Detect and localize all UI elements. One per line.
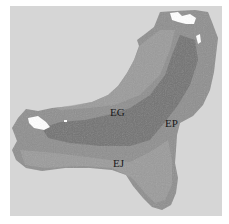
label-ep: EP bbox=[165, 118, 178, 129]
label-ej: EJ bbox=[113, 158, 124, 169]
label-eg: EG bbox=[110, 107, 125, 118]
cloud-small bbox=[64, 120, 67, 122]
